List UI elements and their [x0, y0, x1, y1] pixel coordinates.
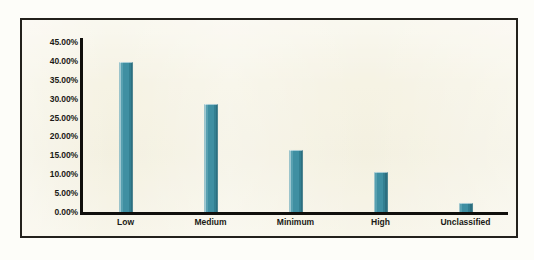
- bar-high: [374, 172, 387, 212]
- bar-minimum: [289, 150, 302, 212]
- y-axis-tick-label: 40.00%: [22, 56, 78, 66]
- bar-top-edge: [374, 172, 387, 173]
- chart-frame: 45.00% 40.00% 35.00% 30.00% 25.00% 20.00…: [20, 18, 518, 238]
- x-axis-tick-label: Unclassified: [440, 217, 490, 227]
- y-axis-tick-label: 10.00%: [22, 169, 78, 179]
- y-axis-tick-labels: 45.00% 40.00% 35.00% 30.00% 25.00% 20.00…: [22, 30, 78, 215]
- bar-slot: [338, 42, 423, 212]
- bars-area: [83, 42, 508, 212]
- bar-top-edge: [459, 203, 472, 204]
- y-axis-tick-label: 45.00%: [22, 37, 78, 47]
- x-axis-tick-label: Low: [117, 217, 134, 227]
- bar-slot: [253, 42, 338, 212]
- bar-medium: [204, 104, 217, 212]
- bar-slot: [168, 42, 253, 212]
- bar-slot: [423, 42, 508, 212]
- y-axis-tick-label: 25.00%: [22, 113, 78, 123]
- x-axis-tick-label: Medium: [194, 217, 226, 227]
- x-axis-tick-label: High: [371, 217, 390, 227]
- scanned-page-background: 45.00% 40.00% 35.00% 30.00% 25.00% 20.00…: [0, 0, 534, 260]
- y-axis-tick-label: 5.00%: [22, 188, 78, 198]
- bar-low: [119, 62, 132, 212]
- x-axis-tick-labels: Low Medium Minimum High Unclassified: [83, 217, 508, 233]
- bar-slot: [83, 42, 168, 212]
- y-axis-tick-label: 35.00%: [22, 75, 78, 85]
- bar-top-edge: [289, 150, 302, 151]
- y-axis-tick-label: 20.00%: [22, 131, 78, 141]
- y-axis-tick-label: 15.00%: [22, 150, 78, 160]
- bar-unclassified: [459, 203, 472, 212]
- x-axis-tick-label: Minimum: [277, 217, 314, 227]
- y-axis-tick-label: 30.00%: [22, 94, 78, 104]
- bar-top-edge: [119, 62, 132, 63]
- x-axis-line: [80, 212, 508, 215]
- bar-chart: 45.00% 40.00% 35.00% 30.00% 25.00% 20.00…: [22, 20, 516, 236]
- y-axis-tick-label: 0.00%: [22, 207, 78, 217]
- bar-top-edge: [204, 104, 217, 105]
